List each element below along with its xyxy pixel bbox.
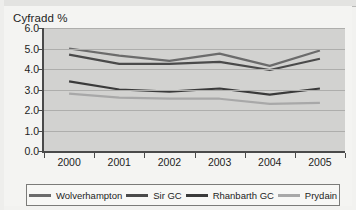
y-tick-label: 4.0 (24, 63, 39, 75)
y-tick-label: 3.0 (24, 84, 39, 96)
legend-label: Rhanbarth GC (213, 190, 274, 201)
y-tick-mark (38, 28, 43, 29)
legend-item[interactable]: Wolverhampton (27, 190, 124, 201)
x-tick-label: 2003 (208, 156, 231, 168)
y-tick-mark (38, 131, 43, 132)
y-tick-mark (38, 90, 43, 91)
chart-screenshot: Cyfradd % 6.05.04.03.02.01.00.0 20002001… (0, 0, 356, 210)
x-tick-mark (144, 153, 145, 158)
chart-legend: WolverhamptonSir GCRhanbarth GCPrydain (26, 184, 340, 206)
legend-item[interactable]: Prydain (276, 190, 339, 201)
legend-label: Prydain (305, 190, 337, 201)
y-tick-mark (38, 110, 43, 111)
legend-label: Wolverhampton (56, 190, 122, 201)
chart-title: Cyfradd % (13, 12, 68, 24)
gridline (44, 90, 345, 91)
y-tick-mark (38, 69, 43, 70)
plot-area (44, 28, 345, 151)
y-tick-mark (38, 151, 43, 152)
x-tick-mark (345, 153, 346, 158)
gridline (44, 28, 345, 29)
legend-item[interactable]: Rhanbarth GC (184, 190, 276, 201)
series-line (69, 81, 320, 94)
x-tick-label: 2005 (308, 156, 331, 168)
y-tick-label: 1.0 (24, 125, 39, 137)
x-tick-label: 2001 (108, 156, 131, 168)
plot-wrapper: 6.05.04.03.02.01.00.0 200020012002200320… (13, 28, 345, 160)
legend-swatch-icon (29, 194, 51, 197)
series-line (69, 94, 320, 104)
gridline (44, 69, 345, 70)
y-tick-label: 6.0 (24, 22, 39, 34)
gridline (44, 49, 345, 50)
y-tick-mark (38, 49, 43, 50)
x-tick-mark (245, 153, 246, 158)
x-tick-mark (295, 153, 296, 158)
gridline (44, 110, 345, 111)
x-tick-label: 2004 (258, 156, 281, 168)
legend-swatch-icon (126, 194, 148, 197)
legend-label: Sir GC (153, 190, 182, 201)
gridline (44, 131, 345, 132)
chart-card: Cyfradd % 6.05.04.03.02.01.00.0 20002001… (4, 6, 352, 206)
x-axis-line (42, 151, 345, 153)
x-tick-mark (94, 153, 95, 158)
legend-swatch-icon (186, 194, 208, 197)
x-tick-mark (195, 153, 196, 158)
x-tick-label: 2000 (57, 156, 80, 168)
y-tick-label: 5.0 (24, 43, 39, 55)
x-tick-label: 2002 (158, 156, 181, 168)
y-axis-labels: 6.05.04.03.02.01.00.0 (13, 28, 39, 152)
y-tick-label: 2.0 (24, 104, 39, 116)
legend-item[interactable]: Sir GC (124, 190, 183, 201)
x-tick-mark (44, 153, 45, 158)
x-axis-labels: 200020012002200320042005 (13, 156, 345, 172)
legend-swatch-icon (278, 194, 300, 197)
